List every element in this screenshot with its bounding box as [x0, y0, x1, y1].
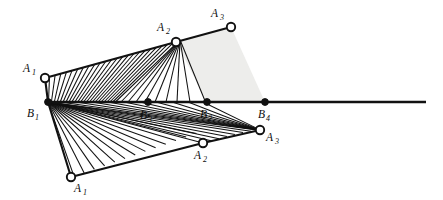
label-B4-subscript: 4 [266, 114, 270, 123]
label-B3-letter: B [140, 109, 147, 121]
label-upper-A3-subscript: 3 [219, 13, 224, 22]
label-upper-A2-subscript: 2 [166, 27, 170, 36]
label-lower-A3-subscript: 3 [274, 137, 279, 146]
label-lower-A2-subscript: 2 [203, 155, 207, 164]
label-B4-letter: B [258, 108, 265, 120]
label-B1-subscript: 1 [35, 113, 39, 122]
label-lower-A1-letter: A [73, 182, 82, 194]
label-lower-A2: A 2 [193, 149, 207, 164]
point-upper-A3-marker [227, 23, 235, 31]
point-upper-A1-marker [41, 74, 49, 82]
label-B4: B 4 [258, 108, 270, 123]
point-B2-marker [204, 99, 211, 106]
label-B1: B 1 [27, 107, 39, 122]
figure-root: A 1 A 2 A 3 A 1 A 2 A 3 B [0, 0, 443, 200]
label-lower-A3: A 3 [265, 131, 279, 146]
point-lower-A2-marker [199, 139, 207, 147]
label-upper-A1-subscript: 1 [32, 68, 36, 77]
label-upper-A3-letter: A [210, 7, 219, 19]
label-B1-letter: B [27, 107, 34, 119]
point-upper-A2-marker [172, 38, 180, 46]
point-B1-marker [45, 99, 52, 106]
label-lower-A3-letter: A [265, 131, 274, 143]
label-B2-subscript: 2 [208, 114, 212, 123]
label-upper-A2-letter: A [156, 21, 165, 33]
label-lower-A1: A 1 [73, 182, 87, 197]
point-lower-A3-marker [256, 126, 264, 134]
label-B2-letter: B [200, 108, 207, 120]
label-upper-A1-letter: A [22, 62, 31, 74]
label-lower-A2-letter: A [193, 149, 202, 161]
label-B3-subscript: 3 [147, 115, 152, 124]
point-B4-marker [262, 99, 269, 106]
point-lower-A1-marker [67, 173, 75, 181]
label-upper-A2: A 2 [156, 21, 170, 36]
label-lower-A1-subscript: 1 [83, 188, 87, 197]
label-upper-A3: A 3 [210, 7, 224, 22]
point-B3-marker [145, 99, 152, 106]
label-upper-A1: A 1 [22, 62, 36, 77]
geometric-diagram: A 1 A 2 A 3 A 1 A 2 A 3 B [0, 0, 443, 200]
